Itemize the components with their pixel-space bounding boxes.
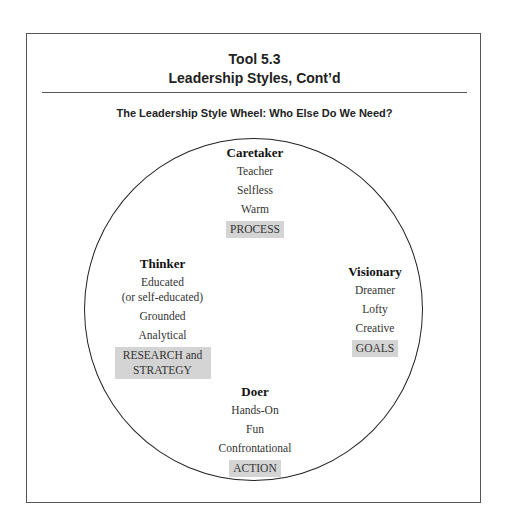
trait: Lofty [330, 300, 420, 319]
style-name: Visionary [330, 262, 420, 281]
tool-title: Leadership Styles, Cont’d [0, 70, 509, 86]
focus-badge: PROCESS [226, 221, 284, 238]
title-divider [42, 92, 467, 93]
trait: Warm [205, 200, 305, 219]
trait: Dreamer [330, 281, 420, 300]
trait: Confrontational [190, 439, 320, 458]
trait: Hands-On [190, 401, 320, 420]
style-thinker: Thinker Educated (or self-educated) Grou… [100, 254, 225, 379]
trait: Teacher [205, 162, 305, 181]
style-caretaker: Caretaker Teacher Selfless Warm PROCESS [205, 143, 305, 238]
trait: Fun [190, 420, 320, 439]
trait: Selfless [205, 181, 305, 200]
focus-badge: GOALS [352, 340, 398, 357]
style-doer: Doer Hands-On Fun Confrontational ACTION [190, 382, 320, 477]
focus-badge: RESEARCH and STRATEGY [115, 347, 211, 379]
trait: Creative [330, 319, 420, 338]
trait: Educated [100, 275, 225, 290]
trait: Analytical [100, 326, 225, 345]
diagram-subtitle: The Leadership Style Wheel: Who Else Do … [0, 107, 509, 119]
style-name: Doer [190, 382, 320, 401]
trait: Grounded [100, 307, 225, 326]
style-name: Thinker [100, 254, 225, 273]
trait: (or self-educated) [100, 290, 225, 305]
focus-badge: ACTION [229, 460, 280, 477]
style-name: Caretaker [205, 143, 305, 162]
style-visionary: Visionary Dreamer Lofty Creative GOALS [330, 262, 420, 357]
tool-number: Tool 5.3 [0, 51, 509, 67]
